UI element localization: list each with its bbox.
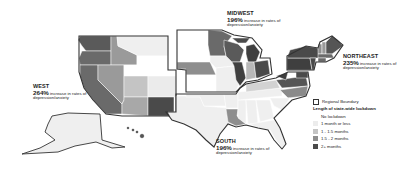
state-ne bbox=[177, 62, 216, 75]
state-ct bbox=[318, 58, 326, 62]
legend-item: 1 - 1.5 months bbox=[313, 128, 376, 135]
state-sc bbox=[270, 98, 290, 110]
state-al bbox=[246, 100, 258, 124]
region-label-northeast: NORTHEAST 235% increase in rates of depr… bbox=[343, 54, 405, 71]
swatch-icon bbox=[313, 136, 318, 141]
state-wy2 bbox=[148, 56, 168, 76]
legend-boundary: Regional Boundary bbox=[313, 98, 376, 105]
legend-item-label: 1 - 1.5 months bbox=[321, 129, 348, 134]
legend-item-label: No lockdown bbox=[321, 114, 346, 119]
swatch-icon bbox=[313, 114, 318, 119]
state-nd bbox=[177, 30, 208, 45]
state-ar bbox=[224, 94, 238, 108]
state-ks bbox=[186, 75, 216, 92]
region-label-south: SOUTH 196% increase in rates of depressi… bbox=[216, 139, 276, 156]
state-nh bbox=[322, 42, 326, 54]
state-pa bbox=[287, 58, 312, 70]
legend-item-label: 1.5 - 2 months bbox=[321, 136, 348, 141]
state-ut bbox=[124, 76, 148, 97]
west-region bbox=[78, 36, 176, 116]
state-hi bbox=[127, 127, 144, 138]
map-legend: Regional Boundary Length of state-wide l… bbox=[313, 98, 376, 150]
state-ak bbox=[22, 113, 125, 154]
state-or bbox=[79, 51, 111, 65]
legend-item-label: 2+ months bbox=[321, 144, 341, 149]
state-wa bbox=[78, 36, 111, 51]
swatch-icon bbox=[313, 144, 318, 149]
boundary-swatch-icon bbox=[313, 99, 319, 105]
legend-item: 2+ months bbox=[313, 142, 376, 149]
legend-title: Length of state-wide lockdown bbox=[313, 106, 376, 111]
legend-boundary-label: Regional Boundary bbox=[322, 99, 359, 104]
swatch-icon bbox=[313, 121, 318, 126]
state-co bbox=[148, 76, 176, 97]
legend-item: No lockdown bbox=[313, 113, 376, 120]
state-ga bbox=[256, 100, 274, 122]
state-sd bbox=[177, 45, 208, 62]
region-label-midwest: MIDWEST 196% increase in rates of depres… bbox=[227, 11, 289, 28]
legend-item: 1 month or less bbox=[313, 120, 376, 127]
state-az bbox=[122, 97, 148, 116]
state-md bbox=[296, 72, 308, 78]
swatch-icon bbox=[313, 129, 318, 134]
legend-item-label: 1 month or less bbox=[321, 121, 350, 126]
region-label-west: WEST 264% increase in rates of depressio… bbox=[33, 84, 93, 101]
state-ma bbox=[318, 54, 334, 58]
legend-item: 1.5 - 2 months bbox=[313, 135, 376, 142]
state-mi bbox=[246, 44, 260, 62]
state-mi-up bbox=[232, 38, 250, 43]
